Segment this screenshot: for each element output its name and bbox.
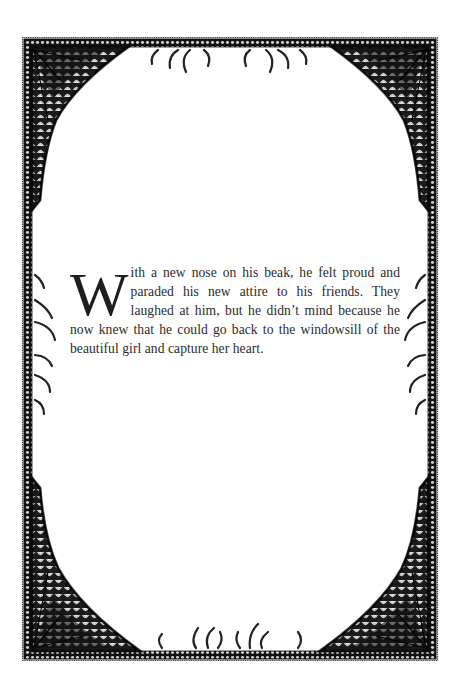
claws-left-middle — [35, 275, 55, 414]
book-page: With a new nose on his beak, he felt pro… — [0, 0, 458, 694]
fan-corner-bottom-right — [320, 478, 428, 651]
claws-top-center — [152, 50, 307, 72]
fan-corner-top-right — [332, 47, 428, 210]
drop-cap: W — [70, 267, 129, 317]
claws-right-middle — [405, 275, 425, 414]
story-paragraph: With a new nose on his beak, he felt pro… — [70, 263, 400, 358]
claws-bottom-center — [159, 624, 301, 648]
fan-corner-top-left — [32, 47, 128, 210]
fan-corner-bottom-left — [32, 478, 140, 651]
